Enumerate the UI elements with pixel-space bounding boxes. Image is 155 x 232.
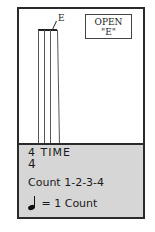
string-d <box>44 30 45 143</box>
count-text: Count 1-2-3-4 <box>28 176 104 189</box>
quarter-note-icon <box>28 196 38 210</box>
fingerboard-nut <box>38 29 57 31</box>
open-string-name: "E" <box>86 27 131 37</box>
diagram-frame: OPEN "E" E 4 TIME 4 Count 1-2-3-4 = 1 Co… <box>17 7 145 219</box>
open-string-box: OPEN "E" <box>85 14 132 39</box>
note-rule-text: = 1 Count <box>42 197 98 210</box>
time-signature-bottom: 4 <box>28 157 36 171</box>
fingerboard-panel: OPEN "E" E <box>19 9 143 143</box>
string-a <box>50 30 51 143</box>
string-g <box>38 30 39 143</box>
e-string-label: E <box>58 13 65 23</box>
time-label: TIME <box>41 146 71 159</box>
string-e <box>57 30 60 143</box>
open-label: OPEN <box>86 17 131 27</box>
time-signature-panel: 4 TIME 4 Count 1-2-3-4 = 1 Count <box>19 143 143 217</box>
note-rule: = 1 Count <box>28 196 97 210</box>
